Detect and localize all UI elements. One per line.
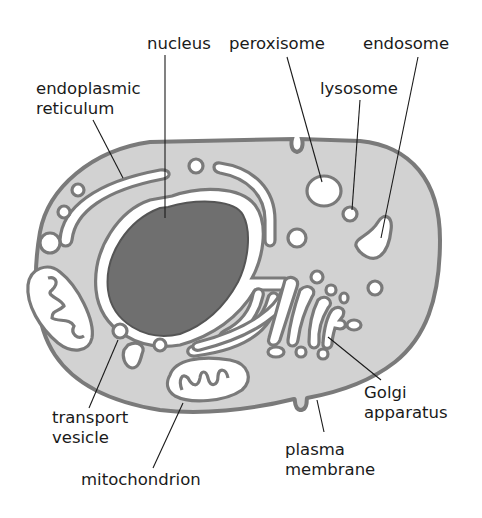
label-lysosome: lysosome bbox=[320, 79, 398, 98]
transport-vesicle bbox=[113, 324, 127, 338]
peroxisome bbox=[307, 176, 341, 206]
leader-plasma-membrane bbox=[317, 400, 324, 432]
label-er-line1: endoplasmic bbox=[36, 79, 141, 98]
label-peroxisome: peroxisome bbox=[229, 34, 325, 53]
label-plasma-line2: membrane bbox=[285, 460, 375, 479]
label-nucleus: nucleus bbox=[147, 34, 211, 53]
label-er-line2: reticulum bbox=[36, 99, 114, 118]
label-endosome: endosome bbox=[363, 34, 449, 53]
vesicle bbox=[58, 206, 70, 218]
cell-diagram: nucleus peroxisome endosome lysosome end… bbox=[0, 0, 482, 518]
label-golgi-line2: apparatus bbox=[364, 403, 448, 422]
vesicle bbox=[368, 281, 382, 295]
golgi-vesicle bbox=[318, 349, 328, 359]
vesicle bbox=[40, 233, 60, 253]
vesicle bbox=[288, 229, 306, 247]
label-plasma-line1: plasma bbox=[285, 440, 345, 459]
golgi-vesicle bbox=[268, 347, 284, 357]
lysosome bbox=[343, 207, 357, 221]
golgi-vesicle bbox=[340, 293, 348, 303]
vesicle bbox=[189, 159, 203, 173]
irregular-vesicle bbox=[123, 343, 143, 368]
label-transport-line1: transport bbox=[52, 408, 129, 427]
golgi-vesicle bbox=[326, 285, 336, 295]
vesicle bbox=[72, 184, 84, 196]
golgi-vesicle bbox=[311, 271, 323, 283]
golgi-vesicle bbox=[296, 347, 306, 357]
mitochondrion-bottom bbox=[167, 358, 248, 401]
label-golgi-line1: Golgi bbox=[364, 383, 407, 402]
label-mitochondrion: mitochondrion bbox=[81, 470, 201, 489]
golgi-vesicle bbox=[347, 320, 361, 330]
vesicle bbox=[154, 339, 166, 351]
label-transport-line2: vesicle bbox=[52, 428, 109, 447]
